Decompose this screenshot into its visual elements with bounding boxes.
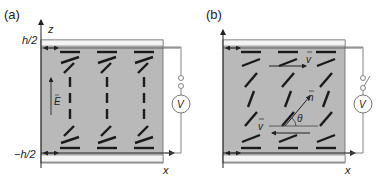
director-label: n: [308, 92, 314, 103]
panel-a-label: (a): [4, 7, 20, 22]
wire-bottom: [347, 113, 363, 153]
z-axis-label: z: [47, 23, 54, 35]
switch-contact: [361, 86, 366, 91]
panel-b: (b) x: [206, 7, 372, 176]
terminal-contact: [179, 84, 184, 89]
x-axis-label: x: [344, 164, 351, 176]
bottom-plate: [223, 155, 345, 162]
theta-label: θ: [297, 113, 303, 124]
top-boundary-label: h/2: [22, 34, 37, 46]
bottom-boundary-label: −h/2: [14, 148, 36, 160]
lc-cell: [223, 40, 345, 163]
bottom-plate: [41, 155, 163, 162]
switch-contact: [361, 76, 366, 81]
panel-b-label: (b): [206, 7, 222, 22]
top-plate: [41, 40, 163, 46]
terminal-contact: [179, 76, 184, 81]
wire-top: [345, 47, 363, 75]
wire-bottom: [165, 113, 181, 153]
x-axis-label: x: [162, 164, 169, 176]
top-plate: [223, 40, 345, 46]
electric-field-label: E: [54, 96, 61, 107]
figure: (a) z x h/2 −h/2 E: [0, 0, 387, 177]
panel-a: (a) z x h/2 −h/2 E: [4, 7, 190, 176]
wire-top: [163, 47, 181, 75]
